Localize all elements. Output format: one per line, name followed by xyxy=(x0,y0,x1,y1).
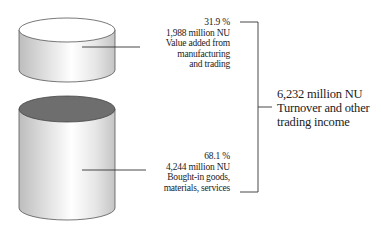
total-desc-2: trading income xyxy=(277,115,369,129)
bought-in-desc-2: materials, services xyxy=(164,183,230,194)
total-amount: 6,232 million NU xyxy=(277,87,369,101)
label-total: 6,232 million NU Turnover and other trad… xyxy=(277,87,369,129)
bought-in-desc-1: Bought-in goods, xyxy=(164,172,230,183)
value-added-amount: 1,988 million NU xyxy=(166,28,230,39)
cylinder-bought-in xyxy=(19,96,115,220)
value-added-desc-3: and trading xyxy=(166,59,230,70)
label-bought-in: 68.1 % 4,244 million NU Bought-in goods,… xyxy=(164,151,230,193)
bought-in-percent: 68.1 % xyxy=(164,151,230,162)
cylinder-value-added xyxy=(19,18,115,82)
value-added-percent: 31.9 % xyxy=(166,17,230,28)
bought-in-amount: 4,244 million NU xyxy=(164,162,230,173)
label-value-added: 31.9 % 1,988 million NU Value added from… xyxy=(166,17,230,70)
value-added-desc-2: manufacturing xyxy=(166,49,230,60)
value-added-desc-1: Value added from xyxy=(166,38,230,49)
total-bracket xyxy=(240,22,272,192)
total-desc-1: Turnover and other xyxy=(277,101,369,115)
